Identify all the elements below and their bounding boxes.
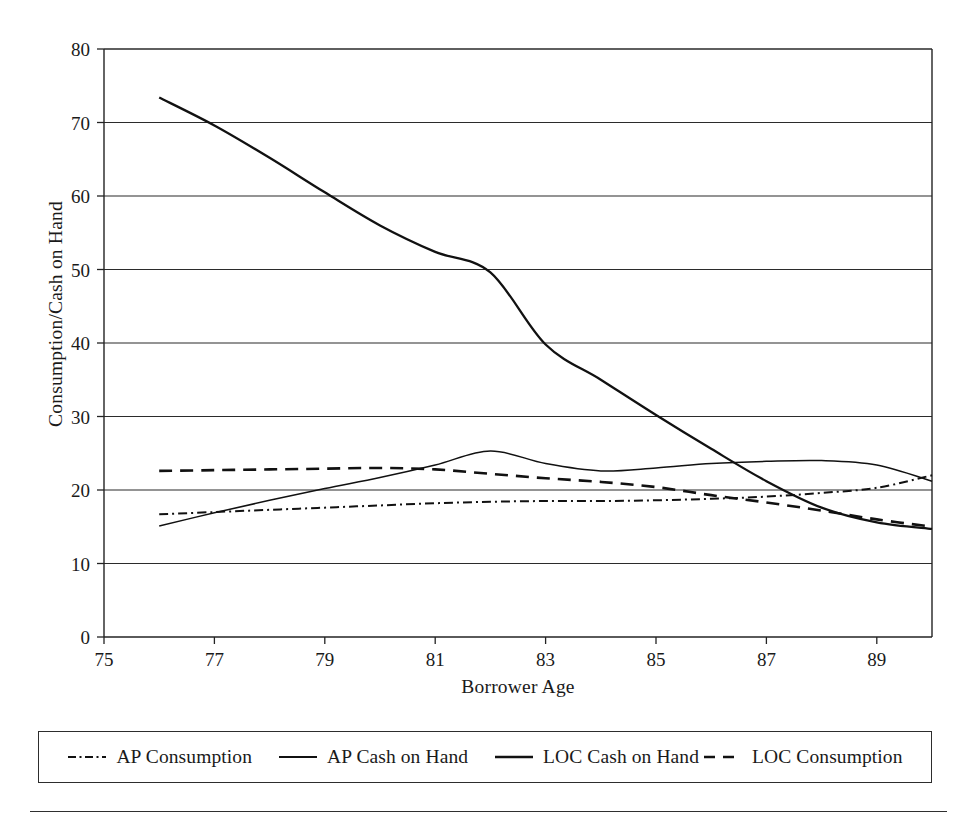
svg-text:30: 30 (71, 407, 90, 428)
svg-text:79: 79 (315, 649, 334, 670)
svg-text:60: 60 (71, 186, 90, 207)
tick-labels: 010203040506070807577798183858789 (71, 39, 886, 670)
svg-text:0: 0 (81, 627, 91, 648)
chart-legend: AP ConsumptionAP Cash on HandLOC Cash on… (38, 731, 932, 783)
svg-text:77: 77 (205, 649, 224, 670)
legend-swatch-loc-consumption-icon (703, 750, 743, 764)
figure-chart-consumption-cash-on-hand: 010203040506070807577798183858789 Consum… (0, 0, 977, 828)
legend-item-ap-cash-on-hand[interactable]: AP Cash on Hand (278, 746, 468, 768)
tick-marks (97, 49, 877, 644)
svg-text:70: 70 (71, 113, 90, 134)
svg-text:81: 81 (426, 649, 445, 670)
chart-plot-area: 010203040506070807577798183858789 (0, 0, 977, 828)
legend-item-loc-cash-on-hand[interactable]: LOC Cash on Hand (494, 746, 699, 768)
series-line-ap-consumption (159, 475, 932, 514)
svg-text:87: 87 (757, 649, 776, 670)
legend-label-ap-consumption: AP Consumption (116, 746, 252, 768)
legend-swatch-loc-cash-on-hand-icon (494, 750, 534, 764)
page-bottom-rule (30, 811, 947, 812)
legend-items: AP ConsumptionAP Cash on HandLOC Cash on… (39, 746, 931, 768)
series-lines (159, 98, 932, 529)
y-axis-title: Consumption/Cash on Hand (45, 154, 67, 474)
legend-item-ap-consumption[interactable]: AP Consumption (67, 746, 252, 768)
svg-text:83: 83 (536, 649, 555, 670)
legend-item-loc-consumption[interactable]: LOC Consumption (703, 746, 902, 768)
legend-label-loc-cash-on-hand: LOC Cash on Hand (543, 746, 699, 768)
series-line-ap-cash-on-hand (159, 451, 932, 526)
svg-text:10: 10 (71, 554, 90, 575)
svg-text:75: 75 (95, 649, 114, 670)
svg-text:50: 50 (71, 260, 90, 281)
svg-text:85: 85 (647, 649, 666, 670)
svg-text:80: 80 (71, 39, 90, 60)
legend-swatch-ap-consumption-icon (67, 750, 107, 764)
svg-text:20: 20 (71, 480, 90, 501)
svg-text:40: 40 (71, 333, 90, 354)
legend-label-loc-consumption: LOC Consumption (752, 746, 902, 768)
legend-label-ap-cash-on-hand: AP Cash on Hand (327, 746, 468, 768)
legend-swatch-ap-cash-on-hand-icon (278, 750, 318, 764)
series-line-loc-consumption (159, 468, 932, 527)
x-axis-title: Borrower Age (104, 676, 932, 698)
svg-text:89: 89 (867, 649, 886, 670)
